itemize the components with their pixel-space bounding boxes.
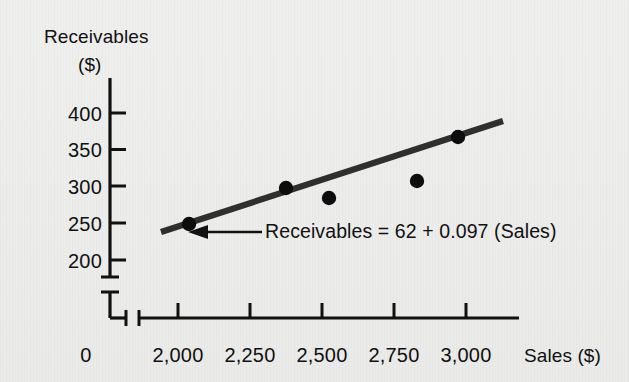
y-tick-label-400: 400 (46, 104, 102, 124)
y-axis-unit-label: ($) (78, 55, 102, 74)
data-point (182, 217, 196, 231)
x-tick-label-0: 0 (46, 345, 126, 365)
x-tick-label-2000: 2,000 (138, 345, 218, 365)
x-tick-label-2250: 2,250 (210, 345, 290, 365)
x-tick-label-2500: 2,500 (282, 345, 362, 365)
x-tick-label-3000: 3,000 (426, 345, 506, 365)
data-point (322, 191, 336, 205)
y-tick-label-350: 350 (46, 140, 102, 160)
y-axis-title: Receivables (44, 27, 149, 46)
data-point (410, 174, 424, 188)
y-tick-label-200: 200 (46, 251, 102, 271)
data-point (451, 130, 465, 144)
y-tick-label-300: 300 (46, 177, 102, 197)
chart-figure: Receivables ($) Sales ($) 400 350 300 25… (0, 0, 629, 382)
y-tick-label-250: 250 (46, 214, 102, 234)
x-tick-label-2750: 2,750 (354, 345, 434, 365)
data-point (279, 181, 293, 195)
regression-equation-label: Receivables = 62 + 0.097 (Sales) (265, 222, 557, 242)
x-axis-title: Sales ($) (524, 346, 601, 365)
